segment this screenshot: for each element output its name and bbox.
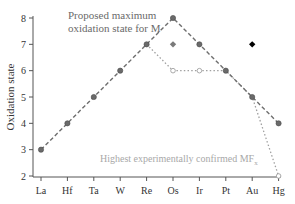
y-tick-label: 8 bbox=[21, 13, 26, 24]
x-tick-label-la: La bbox=[36, 185, 47, 196]
diamond-marker-os bbox=[170, 41, 176, 47]
proposed-marker-ir bbox=[197, 42, 202, 47]
y-tick-label: 2 bbox=[21, 171, 26, 182]
proposed-marker-pt bbox=[223, 68, 228, 73]
y-tick-label: 3 bbox=[21, 144, 26, 155]
proposed-marker-la bbox=[38, 147, 43, 152]
x-tick-label-ta: Ta bbox=[89, 185, 99, 196]
confirmed-marker-hg bbox=[276, 174, 281, 179]
proposed-marker-hg bbox=[276, 121, 281, 126]
annotation-confirmed-subscript: x bbox=[254, 159, 258, 167]
y-tick-label: 6 bbox=[21, 65, 26, 76]
diamond-marker-au bbox=[249, 41, 255, 47]
y-tick-label: 7 bbox=[21, 39, 26, 50]
proposed-marker-au bbox=[250, 94, 255, 99]
annotation-confirmed-text: Highest experimentally confirmed MF bbox=[100, 153, 255, 164]
x-tick-label-au: Au bbox=[246, 185, 258, 196]
oxidation-state-chart: 2345678 LaHfTaWReOsIrPtAuHg Oxidation st… bbox=[0, 0, 295, 204]
annotation-confirmed: Highest experimentally confirmed MFx bbox=[100, 153, 258, 167]
x-tick-label-os: Os bbox=[167, 185, 178, 196]
axes: 2345678 LaHfTaWReOsIrPtAuHg bbox=[21, 13, 285, 197]
annotation-proposed-line1: Proposed maximum bbox=[68, 9, 157, 21]
x-ticks: LaHfTaWReOsIrPtAuHg bbox=[36, 177, 285, 196]
proposed-marker-re bbox=[144, 42, 149, 47]
y-ticks: 2345678 bbox=[21, 13, 33, 182]
y-axis-title: Oxidation state bbox=[4, 63, 16, 130]
y-tick-label: 5 bbox=[21, 92, 26, 103]
series-proposed-line bbox=[41, 18, 279, 150]
x-tick-label-hf: Hf bbox=[62, 185, 73, 196]
annotation-proposed-line2: oxidation state for M bbox=[68, 22, 161, 34]
x-tick-label-re: Re bbox=[141, 185, 153, 196]
confirmed-marker-ir bbox=[197, 68, 202, 73]
proposed-marker-hf bbox=[65, 121, 70, 126]
x-tick-label-w: W bbox=[115, 185, 125, 196]
confirmed-marker-os bbox=[171, 68, 176, 73]
x-tick-label-hg: Hg bbox=[272, 185, 284, 196]
x-tick-label-ir: Ir bbox=[196, 185, 203, 196]
y-tick-label: 4 bbox=[21, 118, 26, 129]
x-tick-label-pt: Pt bbox=[222, 185, 231, 196]
proposed-marker-ta bbox=[91, 94, 96, 99]
proposed-marker-w bbox=[118, 68, 123, 73]
proposed-marker-os bbox=[170, 15, 175, 20]
